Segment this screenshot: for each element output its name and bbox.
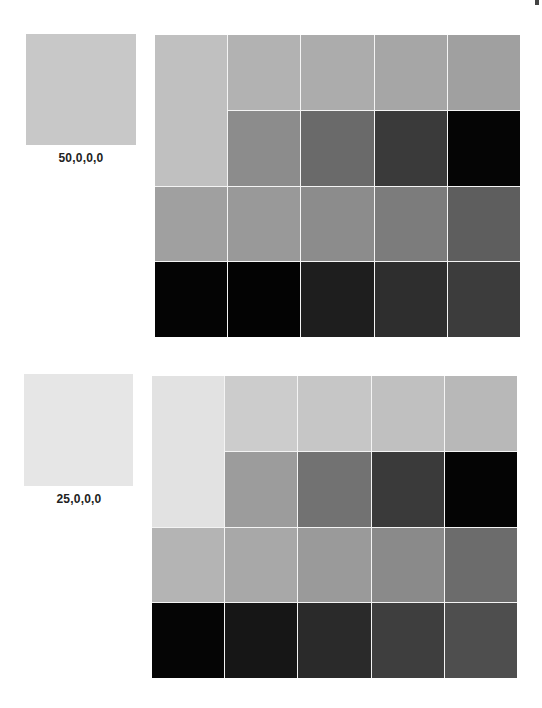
color-cell xyxy=(372,376,444,451)
color-cell xyxy=(375,262,447,337)
color-cell xyxy=(372,452,444,527)
color-cell xyxy=(372,603,444,678)
color-cell xyxy=(298,376,370,451)
color-cell xyxy=(225,603,297,678)
color-cell xyxy=(225,528,297,603)
swatch-label: 25,0,0,0 xyxy=(19,492,139,506)
color-cell xyxy=(301,35,373,110)
color-cell xyxy=(448,111,520,186)
tint-grid xyxy=(155,35,520,337)
color-cell xyxy=(445,376,517,451)
color-cell xyxy=(228,187,300,262)
color-cell xyxy=(301,262,373,337)
color-swatch xyxy=(26,34,136,145)
color-cell xyxy=(225,376,297,451)
color-cell xyxy=(152,603,224,678)
color-cell xyxy=(225,452,297,527)
color-cell xyxy=(155,262,227,337)
swatch-label: 50,0,0,0 xyxy=(21,151,141,165)
color-cell xyxy=(298,603,370,678)
color-cell xyxy=(375,35,447,110)
color-cell xyxy=(155,187,227,262)
tint-grid xyxy=(152,376,517,678)
color-cell xyxy=(155,35,227,186)
color-cell xyxy=(298,528,370,603)
color-cell xyxy=(448,187,520,262)
color-cell xyxy=(372,528,444,603)
page-corner-mark xyxy=(535,0,539,5)
color-cell xyxy=(375,111,447,186)
color-cell xyxy=(298,452,370,527)
color-cell xyxy=(228,35,300,110)
color-swatch xyxy=(24,374,133,486)
color-cell xyxy=(228,111,300,186)
color-cell xyxy=(445,603,517,678)
color-cell xyxy=(301,111,373,186)
color-cell xyxy=(152,528,224,603)
color-cell xyxy=(445,528,517,603)
color-cell xyxy=(445,452,517,527)
color-cell xyxy=(448,35,520,110)
color-cell xyxy=(152,376,224,527)
color-cell xyxy=(375,187,447,262)
color-cell xyxy=(228,262,300,337)
color-cell xyxy=(301,187,373,262)
color-cell xyxy=(448,262,520,337)
